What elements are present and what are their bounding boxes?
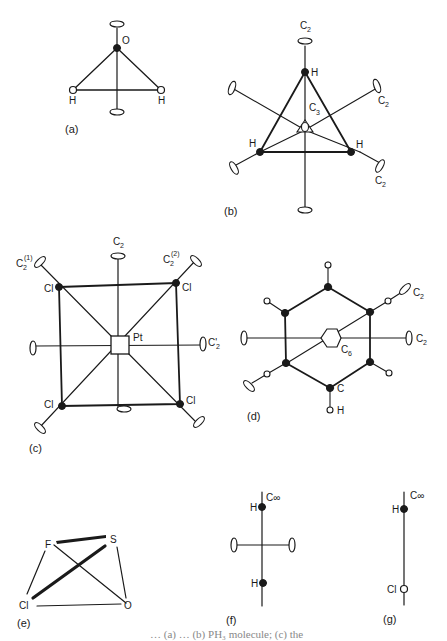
axis-subscript: 3 [316,109,320,116]
axis-subscript: 2 [23,264,27,271]
c4-axis-symbol-icon [111,336,129,354]
panel-f [231,492,295,606]
panel-caption: (c) [29,442,42,454]
figure-caption-partial: … (a) … (b) PH₃ molecule; (c) the [150,628,447,641]
atom-label: H [69,95,76,106]
panel-d [241,262,412,413]
atom-label: H [158,95,165,106]
axis-subscript: 2 [170,260,174,267]
atom-label: H [250,502,257,513]
atom-label: O [122,35,130,46]
hydrogen-atom-icon [257,149,264,156]
axis-subscript: 6 [348,350,352,357]
atom-label: Cl [44,399,53,410]
symmetry-diagram: O H H (a) C 2 H C 3 H H C 2 C 2 (b) C 2 … [0,0,447,641]
atom-label: C [337,383,344,394]
axis-subscript: 2 [423,339,427,346]
atom-label: Cl [44,283,53,294]
panel-g [401,492,408,605]
axis-superscript: (2) [171,250,180,258]
atom-label: O [124,600,132,611]
c2-axis-symbol-icon [110,109,124,115]
hydrogen-atom-icon [259,504,266,511]
panel-caption: (f) [226,614,236,626]
c2-axis-symbol-icon [117,406,131,412]
panel-e [27,535,126,606]
axis-label: C∞ [410,490,424,501]
c2-axis-symbol-icon [110,21,124,27]
chlorine-atom-icon [59,403,66,410]
atom-label: H [251,578,258,589]
atom-label: Cl [387,584,396,595]
atom-label: Cl [19,600,28,611]
panel-caption: (d) [247,410,260,422]
atom-label: H [337,405,344,416]
axis-superscript: (1) [24,254,33,262]
axis-subscript: 2 [120,242,124,249]
c6-axis-symbol-icon [321,329,341,347]
axis-subscript: 2 [420,293,424,300]
hydrogen-atom-icon [302,69,309,76]
panel-b [227,38,386,213]
atom-label: H [249,138,256,149]
axis-subscript: 2 [307,26,311,33]
atom-label: H [392,504,399,515]
atom-label: H [356,139,363,150]
atom-label: S [110,534,117,545]
axis-label: C∞ [266,492,280,503]
axis-subscript: 2 [385,101,389,108]
c2-axis-symbol-icon [111,253,125,259]
panel-caption: (a) [65,123,78,135]
c2-axis-symbol-icon [200,337,206,351]
hydrogen-atom-icon [158,87,165,94]
c2-axis-symbol-icon [241,331,247,345]
panel-c [30,253,206,435]
c2-axis-symbol-icon [289,538,295,552]
chlorine-atom-icon [401,586,408,593]
chlorine-atom-icon [173,280,180,287]
hydrogen-atom-icon [260,580,267,587]
oxygen-atom-icon [114,45,121,52]
panel-a [70,21,165,115]
c2-axis-symbol-icon [298,207,312,213]
carbon-atom-icon [326,384,333,391]
chlorine-atom-icon [177,401,184,408]
c2-axis-symbol-icon [30,341,36,355]
panel-caption: (g) [383,613,396,625]
hydrogen-atom-icon [401,506,408,513]
chlorine-atom-icon [56,284,63,291]
panel-caption: (b) [224,205,237,217]
panel-caption: (e) [17,617,30,629]
c2-axis-symbol-icon [231,538,237,552]
hydrogen-atom-icon [348,149,355,156]
atom-label: F [45,539,51,550]
c2-axis-symbol-icon [406,331,412,345]
atom-label: Pt [133,332,143,343]
c2-axis-symbol-icon [298,38,312,44]
axis-subscript: 2 [216,343,220,350]
hydrogen-atom-icon [70,87,77,94]
atom-label: Cl [182,282,191,293]
atom-label: Cl [186,395,195,406]
atom-label: H [311,67,318,78]
hydrogen-atom-icon [327,407,333,413]
axis-subscript: 2 [382,181,386,188]
